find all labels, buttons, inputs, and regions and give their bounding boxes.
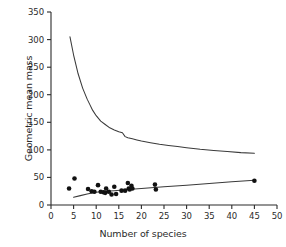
y-axis-ticks — [47, 12, 51, 205]
x-tick-label: 45 — [244, 212, 264, 221]
x-tick-label: 20 — [131, 212, 151, 221]
scatter-point — [67, 186, 72, 191]
x-tick-label: 0 — [41, 212, 61, 221]
scatter-point — [72, 176, 77, 181]
scatter-point — [114, 192, 119, 197]
y-tick-label: 0 — [18, 201, 44, 210]
x-tick-label: 30 — [177, 212, 197, 221]
x-axis-title: Number of species — [0, 228, 286, 239]
x-tick-label: 15 — [109, 212, 129, 221]
x-tick-label: 5 — [64, 212, 84, 221]
axes-group — [47, 12, 277, 209]
scatter-point — [126, 181, 131, 186]
scatter-point — [112, 185, 117, 190]
scatter-point — [130, 186, 135, 191]
scatter-point — [252, 178, 257, 183]
declining-curve-upper — [70, 37, 254, 153]
x-tick-label: 10 — [86, 212, 106, 221]
fitted-trend-lower — [74, 180, 255, 197]
data-group — [67, 37, 257, 197]
scatter-point — [153, 182, 158, 187]
scatter-point — [92, 189, 97, 194]
y-tick-label: 350 — [18, 8, 44, 17]
x-tick-label: 35 — [199, 212, 219, 221]
x-tick-label: 50 — [267, 212, 286, 221]
chart-figure: 350 300 250 200 150 100 50 0 0 5 10 15 2… — [0, 0, 286, 247]
y-axis-title: Geometric mean mass — [23, 34, 34, 184]
x-tick-label: 25 — [154, 212, 174, 221]
scatter-point — [109, 192, 114, 197]
x-axis-ticks — [51, 205, 277, 209]
scatter-point — [96, 183, 101, 188]
x-tick-label: 40 — [222, 212, 242, 221]
scatter-point — [154, 187, 159, 192]
